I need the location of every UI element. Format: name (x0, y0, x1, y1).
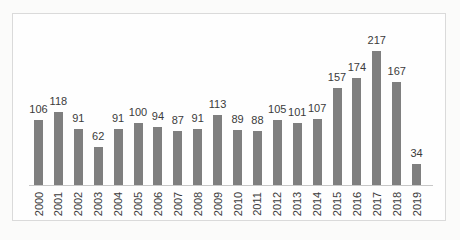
x-axis-line (29, 185, 433, 186)
bar-value-label: 89 (231, 113, 243, 126)
bar (412, 164, 421, 185)
bar (233, 130, 242, 185)
x-axis-tick-label: 2017 (371, 192, 382, 216)
bar-value-label: 174 (348, 61, 366, 74)
bar (34, 120, 43, 185)
bar-value-label: 106 (29, 103, 47, 116)
x-axis-tick-label: 2010 (232, 192, 243, 216)
bar-value-label: 217 (368, 34, 386, 47)
bar (392, 82, 401, 185)
bar (372, 51, 381, 185)
bar (213, 115, 222, 185)
bar-value-label: 118 (50, 95, 68, 108)
bar (293, 123, 302, 185)
bar (173, 131, 182, 185)
bar (153, 127, 162, 185)
bar (94, 147, 103, 185)
x-axis-tick-label: 2014 (312, 192, 323, 216)
bar (193, 129, 202, 185)
x-axis-tick-label: 2018 (391, 192, 402, 216)
x-axis-tick-label: 2012 (272, 192, 283, 216)
bar-value-label: 107 (308, 102, 326, 115)
bar (333, 88, 342, 185)
x-axis-tick-label: 2013 (292, 192, 303, 216)
bar-value-label: 62 (92, 130, 104, 143)
x-axis-tick-label: 2015 (332, 192, 343, 216)
x-axis-tick-label: 2011 (252, 192, 263, 216)
x-axis-tick-label: 2001 (53, 192, 64, 216)
x-axis-tick-label: 2002 (73, 192, 84, 216)
bar-value-label: 113 (209, 98, 227, 111)
bar-value-label: 87 (172, 114, 184, 127)
x-axis-tick-label: 2003 (93, 192, 104, 216)
bar (352, 78, 361, 185)
x-axis-tick-label: 2008 (192, 192, 203, 216)
x-axis-tick-label: 2019 (411, 192, 422, 216)
bar (134, 123, 143, 185)
bar (74, 129, 83, 185)
bar (253, 131, 262, 185)
x-axis-tick-label: 2007 (172, 192, 183, 216)
x-axis-tick-label: 2004 (113, 192, 124, 216)
bar-value-label: 91 (72, 112, 84, 125)
x-axis-tick-label: 2009 (212, 192, 223, 216)
bar-chart: 1062000118200191200262200391200410020059… (0, 0, 460, 240)
bar (114, 129, 123, 185)
bar-value-label: 91 (192, 112, 204, 125)
x-axis-tick-label: 2005 (133, 192, 144, 216)
bar (273, 120, 282, 185)
x-axis-tick-label: 2000 (33, 192, 44, 216)
bar-value-label: 157 (328, 71, 346, 84)
bar (313, 119, 322, 185)
x-axis-tick-label: 2016 (351, 192, 362, 216)
bar-value-label: 94 (152, 110, 164, 123)
bar (54, 112, 63, 185)
x-axis-tick-label: 2006 (152, 192, 163, 216)
bar-value-label: 105 (268, 103, 286, 116)
bar-value-label: 88 (251, 114, 263, 127)
bar-value-label: 101 (288, 106, 306, 119)
bar-value-label: 91 (112, 112, 124, 125)
bar-value-label: 34 (410, 147, 422, 160)
bar-value-label: 167 (388, 65, 406, 78)
bar-value-label: 100 (129, 106, 147, 119)
